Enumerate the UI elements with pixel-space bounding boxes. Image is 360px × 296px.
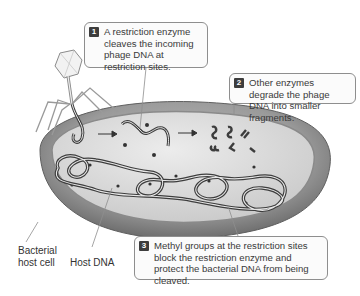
step-badge-1: 1 bbox=[89, 27, 99, 37]
callout-step-1: 1 A restriction enzyme cleaves the incom… bbox=[84, 22, 208, 68]
step-badge-3: 3 bbox=[139, 241, 149, 251]
callout-step-2: 2 Other enzymes degrade the phage DNA in… bbox=[229, 73, 356, 104]
callout-step-3: 3 Methyl groups at the restriction sites… bbox=[134, 236, 328, 280]
step-badge-2: 2 bbox=[234, 78, 244, 88]
label-host-dna: Host DNA bbox=[70, 257, 114, 269]
label-bacterial-host-cell: Bacterial host cell bbox=[18, 245, 68, 269]
callout-text-3: Methyl groups at the restriction sites b… bbox=[154, 240, 309, 286]
callout-text-1: A restriction enzyme cleaves the incomin… bbox=[104, 26, 194, 72]
